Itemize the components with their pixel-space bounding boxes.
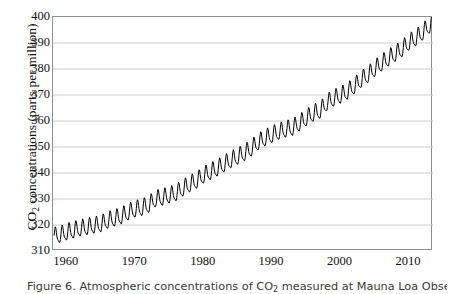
y-axis-tick-380: 380 bbox=[16, 62, 50, 74]
x-axis-tick-1990: 1990 bbox=[248, 254, 294, 268]
x-axis-tick-1970: 1970 bbox=[111, 254, 157, 268]
x-axis-tick-1960: 1960 bbox=[43, 254, 89, 268]
y-axis-tick-400: 400 bbox=[16, 10, 50, 22]
caption-part2: measured at Mauna Loa Observatory bbox=[278, 280, 447, 293]
y-axis-tick-370: 370 bbox=[16, 88, 50, 100]
data-series-line bbox=[54, 17, 432, 242]
plot-area bbox=[52, 16, 432, 250]
figure-caption: Figure 6. Atmospheric concentrations of … bbox=[27, 279, 447, 294]
y-axis-tick-340: 340 bbox=[16, 166, 50, 178]
x-axis-tick-1980: 1980 bbox=[180, 254, 226, 268]
x-axis-tick-2010: 2010 bbox=[385, 254, 431, 268]
x-axis-tick-labels: 196019701980199020002010 bbox=[0, 254, 460, 274]
x-axis-tick-2000: 2000 bbox=[317, 254, 363, 268]
figure-co2-mauna-loa: CO2 concentrations (parts per million) 3… bbox=[0, 0, 460, 294]
y-axis-tick-360: 360 bbox=[16, 114, 50, 126]
y-axis-tick-330: 330 bbox=[16, 192, 50, 204]
y-axis-tick-350: 350 bbox=[16, 140, 50, 152]
y-axis-tick-320: 320 bbox=[16, 218, 50, 230]
y-axis-tick-390: 390 bbox=[16, 36, 50, 48]
chart-canvas bbox=[53, 17, 433, 251]
caption-part1: Figure 6. Atmospheric concentrations of … bbox=[27, 280, 273, 293]
y-axis-tick-labels: 310320330340350360370380390400 bbox=[12, 0, 50, 294]
